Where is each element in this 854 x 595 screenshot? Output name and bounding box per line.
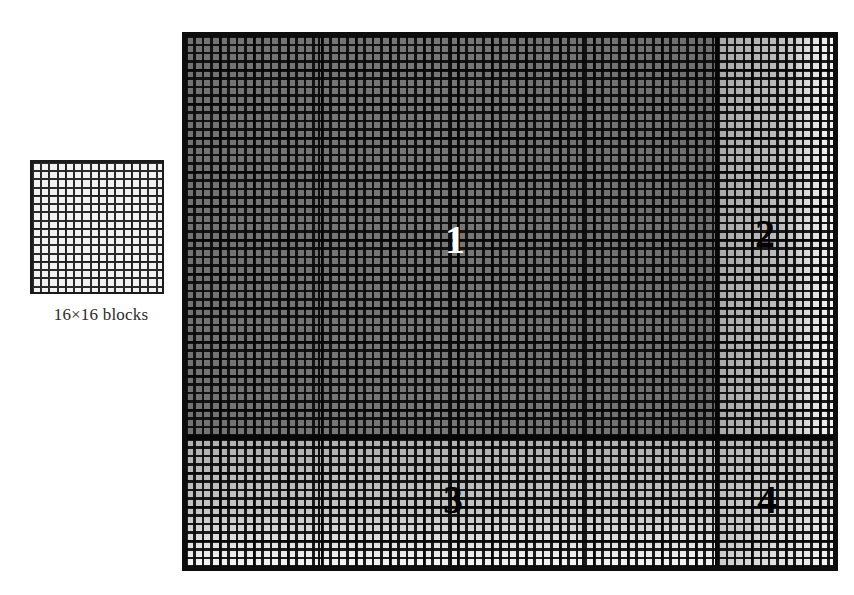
region-label-2: 2 bbox=[755, 214, 775, 254]
legend-block-sample: 16×16 blocks bbox=[30, 160, 172, 325]
block-grid-sample-icon bbox=[30, 160, 164, 294]
region-label-3: 3 bbox=[443, 480, 463, 520]
region-label-4: 4 bbox=[757, 480, 777, 520]
partitioned-frame-grid: 1 2 3 4 bbox=[182, 32, 838, 571]
region-2 bbox=[719, 37, 833, 435]
slice-divider-a bbox=[318, 37, 320, 566]
slice-divider-c bbox=[582, 37, 584, 566]
legend-caption: 16×16 blocks bbox=[30, 305, 172, 325]
separator-vertical-main bbox=[715, 37, 719, 566]
region-label-1: 1 bbox=[445, 220, 465, 260]
region-2-macro-grid bbox=[719, 37, 833, 435]
region-2-fine-grid bbox=[719, 37, 833, 435]
separator-horizontal-main bbox=[187, 435, 833, 440]
